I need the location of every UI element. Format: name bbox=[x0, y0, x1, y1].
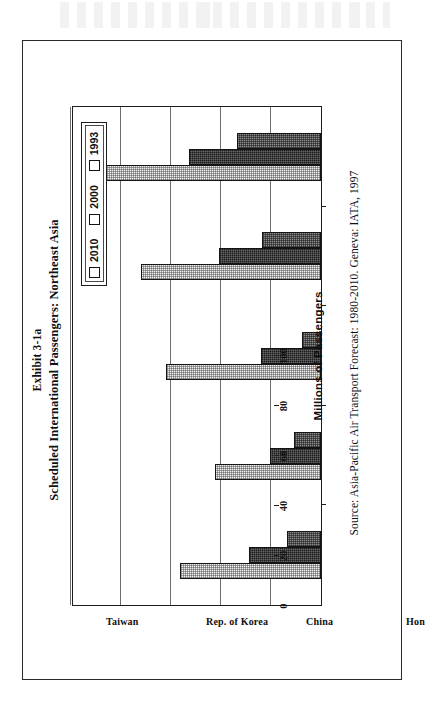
bar-2010-hong-kong bbox=[141, 264, 321, 280]
bar-2010-taiwan bbox=[180, 563, 321, 579]
bar-group-hong-kong bbox=[73, 207, 321, 307]
exhibit-number: Exhibit 3-1a bbox=[30, 42, 45, 678]
legend-swatch-1993 bbox=[89, 160, 100, 171]
figure-frame: Exhibit 3-1a Scheduled International Pas… bbox=[22, 40, 402, 680]
gridline-100 bbox=[70, 107, 71, 605]
category-label-rep-of-korea: Rep. of Korea bbox=[206, 616, 268, 627]
bar-1993-japan bbox=[237, 133, 321, 149]
source-note: Source: Asia-Pacific Air Transport Forec… bbox=[348, 58, 360, 648]
legend-item-1993: 1993 bbox=[88, 132, 100, 171]
category-label-china: China bbox=[306, 616, 333, 627]
legend-label-2010: 2010 bbox=[88, 239, 100, 262]
value-axis-title: Millions of Passengers bbox=[312, 106, 324, 606]
bar-2000-japan bbox=[189, 149, 322, 165]
legend-label-2000: 2000 bbox=[88, 185, 100, 208]
category-label-hong-kong: Hong Kong bbox=[406, 616, 425, 627]
category-label-taiwan: Taiwan bbox=[106, 616, 139, 627]
chart-title-block: Exhibit 3-1a Scheduled International Pas… bbox=[30, 42, 63, 678]
value-tick-label-80: 80 bbox=[278, 401, 289, 412]
legend-item-2010: 2010 bbox=[88, 239, 100, 278]
chart-title: Scheduled International Passengers: Nort… bbox=[46, 42, 63, 678]
bar-2000-hong-kong bbox=[219, 248, 322, 264]
legend-label-1993: 1993 bbox=[88, 132, 100, 155]
legend: 2010 2000 1993 bbox=[81, 122, 107, 286]
rotated-chart-canvas: Exhibit 3-1a Scheduled International Pas… bbox=[24, 42, 400, 678]
value-tick-label-20: 20 bbox=[278, 551, 289, 562]
value-tick-label-40: 40 bbox=[278, 501, 289, 512]
value-tick-label-60: 60 bbox=[278, 451, 289, 462]
value-tick-label-0: 0 bbox=[278, 603, 289, 608]
bar-group-japan bbox=[73, 107, 321, 207]
value-tick-label-100: 100 bbox=[278, 348, 289, 364]
scan-artifact-top bbox=[60, 2, 390, 28]
bar-2010-japan bbox=[92, 165, 321, 181]
bar-2010-china bbox=[166, 364, 321, 380]
legend-swatch-2000 bbox=[89, 214, 100, 225]
legend-item-2000: 2000 bbox=[88, 185, 100, 224]
bar-2010-rep-of-korea bbox=[215, 464, 321, 480]
legend-swatch-2010 bbox=[89, 267, 100, 278]
